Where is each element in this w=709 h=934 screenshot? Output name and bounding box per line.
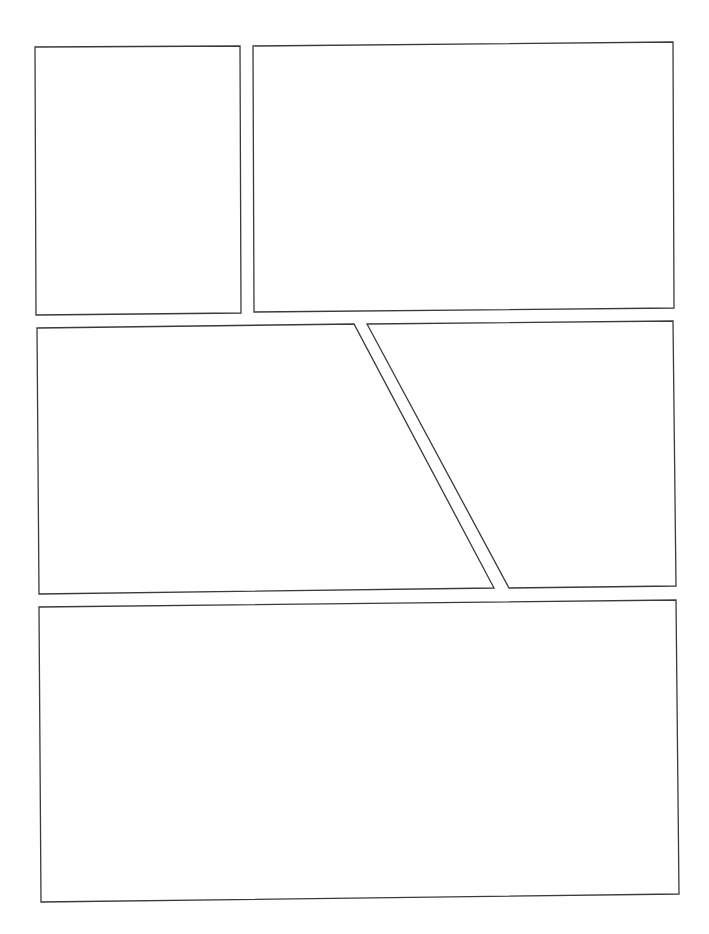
panel-layout — [0, 0, 709, 934]
panel-5[interactable] — [39, 600, 679, 902]
comic-page — [0, 0, 709, 934]
panel-1[interactable] — [35, 46, 241, 315]
panel-2[interactable] — [253, 42, 674, 312]
